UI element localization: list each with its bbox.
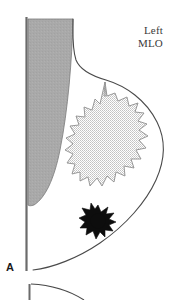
view-label: Left MLO: [73, 24, 163, 49]
next-figure-breast-outline: [31, 284, 84, 300]
view-label-laterality: Left: [73, 24, 163, 37]
next-figure-fragment: [30, 284, 85, 300]
pectoral-muscle: [28, 19, 73, 206]
figure-panel: Left MLO A: [0, 0, 172, 300]
view-label-projection: MLO: [73, 37, 163, 50]
panel-letter: A: [6, 261, 14, 273]
glandular-tissue: [65, 82, 148, 186]
spiculated-mass-core: [91, 214, 106, 229]
